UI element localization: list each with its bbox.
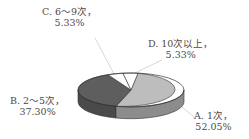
leader-line-d	[133, 60, 162, 74]
label-slice-b: B. 2～5次， 37.30%	[10, 95, 65, 117]
label-b-name: B. 2～5次，	[10, 95, 65, 106]
label-slice-a: A. 1次， 52.05%	[194, 110, 233, 132]
label-b-value: 37.30%	[10, 106, 65, 117]
label-d-name: D. 10次以上，	[148, 38, 213, 49]
label-c-value: 5.33%	[42, 17, 97, 28]
label-slice-d: D. 10次以上， 5.33%	[148, 38, 213, 60]
label-a-value: 52.05%	[194, 121, 233, 132]
leader-line-a	[180, 105, 195, 118]
label-a-name: A. 1次，	[194, 110, 233, 121]
leader-line-c	[95, 38, 114, 74]
label-d-value: 5.33%	[148, 49, 213, 60]
label-slice-c: C. 6～9次， 5.33%	[42, 6, 97, 28]
label-c-name: C. 6～9次，	[42, 6, 97, 17]
pie-chart: C. 6～9次， 5.33% D. 10次以上， 5.33% B. 2～5次， …	[0, 0, 249, 139]
